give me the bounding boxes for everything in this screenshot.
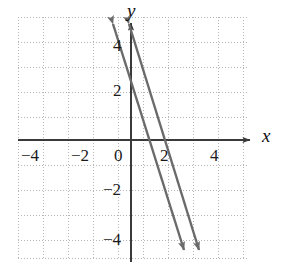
- origin-label-0: 0: [114, 147, 123, 164]
- x-tick-label-4: 4: [210, 147, 219, 164]
- y-tick-label-4: 4: [113, 37, 122, 54]
- x-tick-label--2: −2: [71, 147, 89, 164]
- plot-area: [0, 0, 283, 269]
- plotted-line-1: [113, 24, 184, 250]
- x-tick-label-2: 2: [160, 147, 169, 164]
- plotted-line-2: [129, 24, 199, 250]
- x-axis-label: x: [262, 126, 270, 145]
- y-tick-label-2: 2: [113, 82, 122, 99]
- y-axis-label: y: [127, 1, 135, 20]
- y-tick-label--4: −4: [103, 231, 121, 248]
- coordinate-plane-figure: x y −4 −2 0 2 4 4 2 −2 −4: [0, 0, 283, 269]
- x-tick-label--4: −4: [21, 147, 39, 164]
- y-tick-label--2: −2: [103, 181, 121, 198]
